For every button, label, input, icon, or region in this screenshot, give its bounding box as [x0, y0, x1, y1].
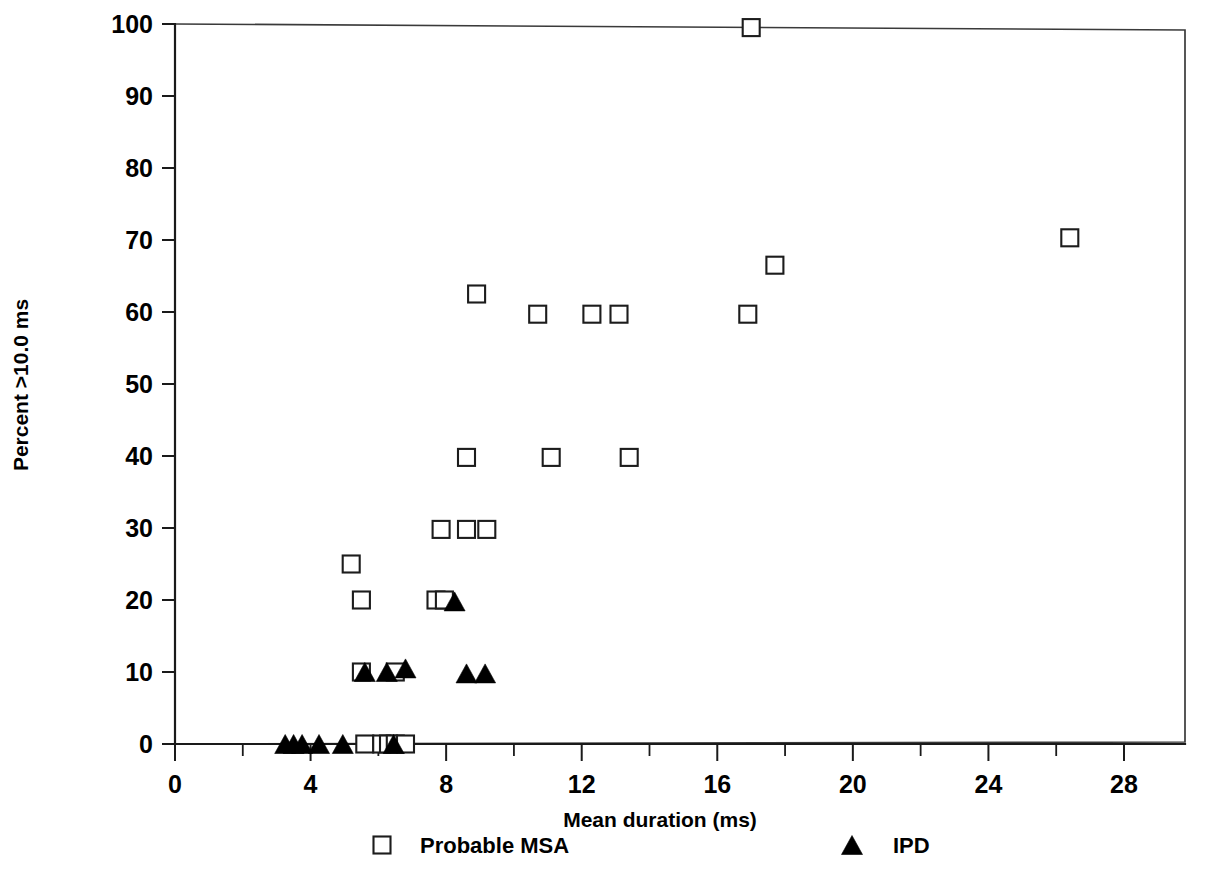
- y-axis-title: Percent >10.0 ms: [9, 299, 32, 471]
- y-tick-label: 50: [125, 370, 153, 398]
- data-point-square: [743, 19, 760, 36]
- data-point-triangle: [475, 664, 496, 683]
- data-point-square: [529, 306, 546, 323]
- y-axis: 0102030405060708090100: [111, 10, 175, 758]
- y-tick-label: 80: [125, 154, 153, 182]
- data-point-square: [621, 449, 638, 466]
- legend-marker-triangle: [842, 836, 863, 855]
- chart-page: 0102030405060708090100 0481216202428 Mea…: [0, 0, 1205, 875]
- data-point-square: [611, 306, 628, 323]
- x-tick-label: 4: [304, 770, 318, 798]
- data-point-square: [766, 257, 783, 274]
- data-point-square: [353, 592, 370, 609]
- legend: Probable MSAIPD: [374, 833, 930, 858]
- legend-label-ipd: IPD: [893, 833, 930, 858]
- data-point-square: [356, 736, 373, 753]
- y-tick-label: 90: [125, 82, 153, 110]
- plot-frame: [175, 24, 1185, 744]
- y-tick-label: 10: [125, 658, 153, 686]
- data-point-square: [543, 449, 560, 466]
- x-tick-label: 24: [975, 770, 1003, 798]
- data-point-square: [478, 521, 495, 538]
- data-point-triangle: [456, 664, 477, 683]
- data-point-square: [583, 306, 600, 323]
- y-tick-label: 20: [125, 586, 153, 614]
- y-tick-label: 70: [125, 226, 153, 254]
- scatter-plot: 0102030405060708090100 0481216202428 Mea…: [0, 0, 1205, 875]
- data-points: [275, 19, 1079, 753]
- series-probable-msa: [343, 19, 1079, 752]
- data-point-square: [458, 521, 475, 538]
- y-tick-label: 60: [125, 298, 153, 326]
- x-tick-label: 20: [839, 770, 867, 798]
- y-tick-label: 0: [139, 730, 153, 758]
- x-tick-label: 12: [568, 770, 596, 798]
- data-point-square: [458, 449, 475, 466]
- data-point-square: [1061, 229, 1078, 246]
- x-tick-label: 0: [168, 770, 182, 798]
- data-point-square: [433, 521, 450, 538]
- y-tick-label: 40: [125, 442, 153, 470]
- x-axis-title: Mean duration (ms): [563, 808, 757, 831]
- series-ipd: [275, 592, 496, 754]
- y-tick-label: 30: [125, 514, 153, 542]
- legend-marker-square: [374, 837, 391, 854]
- plot-border: [175, 24, 1185, 744]
- data-point-square: [739, 306, 756, 323]
- legend-label-probable-msa: Probable MSA: [420, 833, 569, 858]
- x-tick-label: 28: [1110, 770, 1138, 798]
- data-point-square: [468, 286, 485, 303]
- x-tick-label: 16: [703, 770, 731, 798]
- y-tick-label: 100: [111, 10, 153, 38]
- data-point-square: [343, 556, 360, 573]
- x-tick-label: 8: [439, 770, 453, 798]
